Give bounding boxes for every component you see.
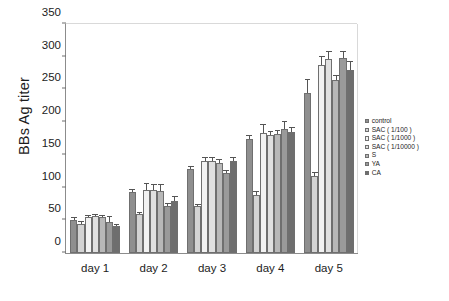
y-axis-tick-label: 250 (42, 71, 61, 83)
bar-slot (77, 24, 84, 253)
error-bar (314, 173, 315, 176)
error-bar (307, 80, 308, 93)
error-bar-cap (230, 157, 236, 158)
bar (92, 216, 99, 253)
error-bar-cap (260, 124, 266, 125)
error-bar-cap (340, 51, 346, 52)
error-bar-cap (223, 170, 229, 171)
y-axis-tick-label: 300 (42, 39, 61, 51)
legend-item-label: CA (372, 169, 381, 178)
plot-area: 050100150200250300350day 1day 2day 3day … (65, 24, 358, 254)
bar-slot (85, 24, 92, 253)
legend-swatch-icon (365, 136, 369, 140)
bar-slot (187, 24, 194, 253)
error-bar (226, 171, 227, 173)
error-bar (116, 225, 117, 226)
legend-swatch-icon (365, 154, 369, 158)
bar (339, 58, 346, 253)
bar-slot (143, 24, 150, 253)
error-bar (81, 222, 82, 225)
bar (187, 169, 194, 253)
error-bar (205, 157, 206, 161)
x-axis-tick-label: day 3 (198, 262, 226, 274)
bar (129, 192, 136, 253)
legend-item: SAC ( 1/100 ) (365, 126, 447, 135)
bar-slot (281, 24, 288, 253)
error-bar-cap (144, 183, 150, 184)
bar-slot (129, 24, 136, 253)
error-bar (321, 57, 322, 65)
bar-slot (246, 24, 253, 253)
error-bar (160, 185, 161, 191)
legend-item-label: control (372, 117, 392, 126)
bar-cluster (66, 24, 124, 253)
error-bar (109, 217, 110, 222)
error-bar (153, 185, 154, 190)
error-bar (74, 218, 75, 220)
error-bar-cap (202, 157, 208, 158)
bar (260, 133, 267, 253)
error-bar-cap (78, 221, 84, 222)
legend-item: SAC ( 1/10000 ) (365, 143, 447, 152)
error-bar-cap (282, 121, 288, 122)
x-axis-tick-label: day 4 (256, 262, 284, 274)
x-axis-tick-label: day 5 (315, 262, 343, 274)
bar (150, 190, 157, 253)
bar-slot (194, 24, 201, 253)
bar-slot (318, 24, 325, 253)
legend-swatch-icon (365, 171, 369, 175)
error-bar (190, 167, 191, 169)
x-axis-tick-label: day 1 (81, 262, 109, 274)
error-bar-cap (137, 212, 143, 213)
error-bar (336, 76, 337, 80)
bar (171, 201, 178, 253)
y-axis-tick-label: 150 (42, 137, 61, 149)
legend-swatch-icon (365, 128, 369, 132)
bar (332, 80, 339, 253)
bar-slot (223, 24, 230, 253)
legend-item: CA (365, 169, 447, 178)
error-bar (343, 52, 344, 59)
bar-slot (325, 24, 332, 253)
bar-slot (208, 24, 215, 253)
error-bar-cap (268, 131, 274, 132)
bar-cluster (241, 24, 299, 253)
bar (325, 59, 332, 253)
error-bar-cap (347, 61, 353, 62)
legend-swatch-icon (365, 119, 369, 123)
y-axis-tick-label: 50 (48, 202, 61, 214)
bar-slot (216, 24, 223, 253)
bar (85, 217, 92, 253)
error-bar (146, 184, 147, 191)
error-bar-cap (209, 157, 215, 158)
bar (164, 206, 171, 253)
bar-slot (136, 24, 143, 253)
error-bar-cap (319, 56, 325, 57)
error-bar (212, 157, 213, 160)
bar-slot (157, 24, 164, 253)
error-bar (102, 216, 103, 217)
error-bar (132, 190, 133, 193)
bar-slot (347, 24, 354, 253)
bar (143, 190, 150, 253)
error-bar-cap (289, 127, 295, 128)
bar-cluster (183, 24, 241, 253)
bar-slot (267, 24, 274, 253)
error-bar (139, 212, 140, 213)
error-bar (174, 197, 175, 201)
error-bar-cap (99, 215, 105, 216)
y-axis-title: BBs Ag titer (16, 46, 32, 186)
bar (347, 70, 354, 253)
bar-slot (106, 24, 113, 253)
error-bar (95, 214, 96, 215)
bar-slot (70, 24, 77, 253)
error-bar-cap (253, 191, 259, 192)
bar (136, 214, 143, 253)
bar-slot (288, 24, 295, 253)
error-bar-cap (165, 203, 171, 204)
bar-group: day 1 (66, 24, 124, 253)
bar (208, 161, 215, 253)
legend-item-label: S (372, 151, 376, 160)
bar (274, 134, 281, 253)
bar (246, 139, 253, 253)
